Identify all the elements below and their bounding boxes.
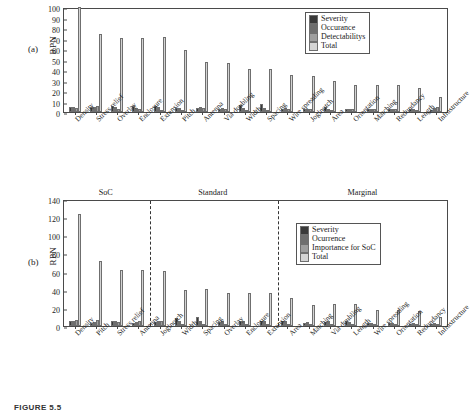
bar-group-container-b xyxy=(64,201,447,326)
figure-caption: FIGURE 5.5 xyxy=(14,403,62,412)
y-axis-tick: 60 xyxy=(52,47,64,56)
bar-total xyxy=(78,7,81,112)
bar-total xyxy=(141,38,144,112)
bar-total xyxy=(120,270,123,326)
bar-total xyxy=(248,293,251,326)
bar-group[interactable] xyxy=(213,201,234,326)
legend-swatch-icon xyxy=(309,15,318,24)
bar-group[interactable] xyxy=(192,9,213,112)
bar-total xyxy=(397,85,400,112)
region-divider xyxy=(150,201,151,326)
legend-label: Total xyxy=(312,253,328,261)
legend-swatch-icon xyxy=(309,24,318,33)
bar-group[interactable] xyxy=(383,9,404,112)
region-label: Standard xyxy=(198,188,227,197)
region-divider xyxy=(278,201,279,326)
legend-item[interactable]: Total xyxy=(300,253,376,262)
bar-total xyxy=(290,75,293,112)
y-axis-tick: 20 xyxy=(52,305,64,314)
bar-group[interactable] xyxy=(85,9,106,112)
bar-group[interactable] xyxy=(170,201,191,326)
region-label: Marginal xyxy=(348,188,378,197)
bar-group[interactable] xyxy=(256,201,277,326)
legend-b: SeverityOcurrenceImportance for SoCTotal xyxy=(296,223,381,265)
legend-a: SeverityOccuranceDetectabilitysTotal xyxy=(305,12,370,54)
bar-group[interactable] xyxy=(64,201,85,326)
bar-group[interactable] xyxy=(149,201,170,326)
legend-swatch-icon xyxy=(309,33,318,42)
y-axis-tick: 80 xyxy=(52,26,64,35)
bar-total xyxy=(141,270,144,326)
y-axis-tick: 20 xyxy=(52,89,64,98)
region-label: SoC xyxy=(99,188,113,197)
plot-area-a: DensityStress reliefOverlayEnclosureExte… xyxy=(63,8,448,113)
y-axis-tick: 40 xyxy=(52,287,64,296)
bar-total xyxy=(99,34,102,112)
bar-total xyxy=(99,261,102,326)
panel-a-label: (a) xyxy=(28,44,38,54)
y-axis-tick: 90 xyxy=(52,15,64,24)
bar-total xyxy=(227,63,230,112)
bar-total xyxy=(205,289,208,326)
y-axis-tick: 10 xyxy=(52,99,64,108)
bar-group[interactable] xyxy=(107,201,128,326)
y-axis-tick: 60 xyxy=(52,269,64,278)
y-axis-tick: 120 xyxy=(48,215,64,224)
legend-item[interactable]: Total xyxy=(309,42,365,51)
bar-group[interactable] xyxy=(85,201,106,326)
y-axis-tick: 50 xyxy=(52,57,64,66)
bar-group[interactable] xyxy=(64,9,85,112)
plot-area-b: DensityPitchStress reliefAntennaJoglnotc… xyxy=(63,200,448,327)
panel-b-label: (b) xyxy=(28,257,39,267)
y-axis-tick: 100 xyxy=(48,233,64,242)
bar-group[interactable] xyxy=(256,9,277,112)
y-axis-tick: 0 xyxy=(56,110,64,119)
bar-group[interactable] xyxy=(213,9,234,112)
y-axis-tick: 100 xyxy=(48,5,64,14)
bar-total xyxy=(163,271,166,326)
chart-panel-a: (a) RPN DensityStress reliefOverlayEnclo… xyxy=(0,0,463,185)
bar-total xyxy=(78,214,81,326)
legend-swatch-icon xyxy=(300,253,309,262)
y-axis-tick: 80 xyxy=(52,251,64,260)
bar-total xyxy=(184,290,187,326)
y-axis-tick: 0 xyxy=(56,324,64,333)
bar-total xyxy=(290,298,293,326)
bar-total xyxy=(269,293,272,326)
legend-swatch-icon xyxy=(309,42,318,51)
bar-group[interactable] xyxy=(426,9,447,112)
legend-swatch-icon xyxy=(300,244,309,253)
bar-group[interactable] xyxy=(277,201,298,326)
legend-item[interactable]: Detectabilitys xyxy=(309,33,365,42)
y-axis-tick: 30 xyxy=(52,78,64,87)
y-axis-tick: 70 xyxy=(52,36,64,45)
bar-group[interactable] xyxy=(170,9,191,112)
bar-total xyxy=(333,81,336,112)
bar-group[interactable] xyxy=(192,201,213,326)
bar-total xyxy=(269,69,272,112)
bar-group[interactable] xyxy=(234,201,255,326)
legend-swatch-icon xyxy=(300,226,309,235)
bar-group[interactable] xyxy=(277,9,298,112)
bar-total xyxy=(354,85,357,112)
bar-total xyxy=(205,62,208,112)
y-axis-tick: 140 xyxy=(48,197,64,206)
bar-total xyxy=(227,293,230,326)
y-axis-tick: 40 xyxy=(52,68,64,77)
legend-label: Total xyxy=(321,42,337,50)
chart-panel-b: (b) RPN DensityPitchStress reliefAntenna… xyxy=(0,185,463,413)
legend-swatch-icon xyxy=(300,235,309,244)
bar-group[interactable] xyxy=(128,9,149,112)
